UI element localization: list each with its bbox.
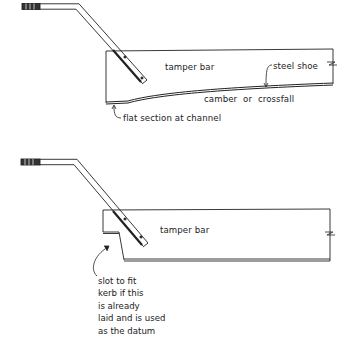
steel-shoe-label: steel shoe (273, 61, 318, 71)
handle-shaft (40, 159, 148, 247)
slot-note-line: kerb if this (98, 287, 165, 299)
handle-grip-icon (22, 4, 40, 10)
tamper-bar-label: tamper bar (165, 62, 214, 72)
camber-label: camber or crossfall (204, 94, 294, 104)
slot-note: slot to fit kerb if this is already laid… (98, 275, 165, 337)
slot-leader (93, 247, 108, 276)
handle-grip-icon (21, 159, 40, 165)
diagram-canvas (0, 0, 353, 339)
flat-section-label: flat section at channel (123, 113, 221, 123)
tamper-bar-label-bottom: tamper bar (160, 225, 209, 235)
slot-note-line: is already (98, 300, 165, 312)
slot-note-line: laid and is used (98, 312, 165, 324)
slot-note-line: slot to fit (98, 275, 165, 287)
bottom-tamper-diagram (21, 159, 335, 276)
steel-shoe-leader (266, 65, 272, 86)
handle-shaft (40, 4, 147, 84)
tamper-bar-body (103, 209, 335, 261)
slot-note-line: as the datum (98, 325, 165, 337)
